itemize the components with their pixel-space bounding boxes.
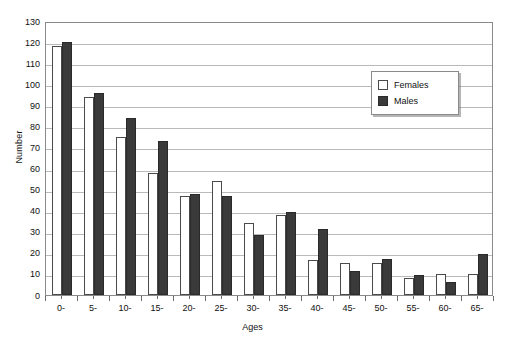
y-axis-tick-label: 120 (16, 39, 40, 48)
y-axis-tick-label: 30 (16, 228, 40, 237)
legend-swatch-males-icon (378, 96, 388, 106)
x-axis-minor-tick (445, 296, 446, 299)
bar-males (446, 282, 456, 295)
x-axis-minor-tick (125, 296, 126, 299)
x-axis-tick (109, 296, 110, 301)
y-axis-tick-label: 80 (16, 123, 40, 132)
bar-females (212, 181, 222, 295)
x-axis-tick (429, 296, 430, 301)
bar-males (414, 275, 424, 295)
bar-males (478, 254, 488, 295)
x-axis-minor-tick (189, 296, 190, 299)
bar-males (62, 42, 72, 295)
x-axis-tick (365, 296, 366, 301)
bar-males (350, 271, 360, 295)
y-axis-tick-label: 0 (16, 292, 40, 301)
y-axis-tick-label: 90 (16, 102, 40, 111)
x-axis-minor-tick (349, 296, 350, 299)
x-axis-tick (397, 296, 398, 301)
y-axis-tick-label: 10 (16, 270, 40, 279)
plot-area (45, 22, 493, 296)
bar-females (52, 46, 62, 295)
bar-females (180, 196, 190, 295)
legend-swatch-females-icon (378, 80, 388, 90)
x-axis-tick (333, 296, 334, 301)
y-axis-tick-label: 110 (16, 60, 40, 69)
bar-females (404, 278, 414, 295)
x-axis-tick (269, 296, 270, 301)
legend-label-females: Females (394, 80, 429, 90)
bar-males (382, 259, 392, 295)
bar-females (468, 274, 478, 295)
bar-females (436, 274, 446, 295)
bar-group (276, 23, 296, 295)
x-axis-tick (237, 296, 238, 301)
bar-females (148, 173, 158, 295)
bar-chart: Number 1301201101009080706050403020100 0… (0, 0, 505, 344)
y-axis-tick-label: 20 (16, 249, 40, 258)
bar-group (116, 23, 136, 295)
x-axis-tick (461, 296, 462, 301)
bar-group (404, 23, 424, 295)
bar-females (116, 137, 126, 295)
bars-layer (46, 23, 492, 295)
x-axis-title: Ages (0, 322, 505, 332)
x-axis-minor-tick (413, 296, 414, 299)
bar-group (84, 23, 104, 295)
x-axis-minor-tick (317, 296, 318, 299)
y-axis-tick-labels: 1301201101009080706050403020100 (14, 0, 40, 344)
bar-group (212, 23, 232, 295)
bar-males (254, 235, 264, 295)
x-axis-tick (77, 296, 78, 301)
x-axis-tick (45, 296, 46, 301)
legend-label-males: Males (394, 96, 418, 106)
y-axis-tick-label: 130 (16, 18, 40, 27)
bar-group (148, 23, 168, 295)
bar-group (436, 23, 456, 295)
bar-females (244, 223, 254, 295)
x-axis-tick (301, 296, 302, 301)
bar-males (126, 118, 136, 295)
x-axis-minor-tick (285, 296, 286, 299)
bar-males (190, 194, 200, 295)
legend-item-females: Females (378, 77, 452, 93)
bar-group (52, 23, 72, 295)
legend-item-males: Males (378, 93, 452, 109)
x-axis-tick (141, 296, 142, 301)
x-axis-tick-labels: 0-5-10-15-20-25-30-35-40-45-50-55-60-65- (45, 303, 493, 319)
chart-legend: Females Males (371, 71, 459, 115)
x-axis-minor-tick (477, 296, 478, 299)
bar-group (372, 23, 392, 295)
y-axis-tick-label: 40 (16, 207, 40, 216)
x-axis-minor-tick (93, 296, 94, 299)
x-axis-minor-tick (253, 296, 254, 299)
x-axis-tick (205, 296, 206, 301)
bar-females (276, 215, 286, 295)
x-axis-tick (173, 296, 174, 301)
bar-females (308, 260, 318, 295)
bar-males (94, 93, 104, 295)
bar-females (84, 97, 94, 295)
x-axis-minor-tick (381, 296, 382, 299)
x-axis-tick-label: 65- (457, 303, 497, 313)
bar-group (468, 23, 488, 295)
y-axis-tick-label: 50 (16, 186, 40, 195)
x-axis-minor-tick (221, 296, 222, 299)
bar-females (340, 263, 350, 295)
bar-males (318, 229, 328, 295)
y-axis-tick-label: 60 (16, 165, 40, 174)
bar-group (340, 23, 360, 295)
bar-group (180, 23, 200, 295)
x-axis-tick (493, 296, 494, 301)
x-axis-minor-tick (157, 296, 158, 299)
y-axis-tick-label: 70 (16, 144, 40, 153)
bar-males (158, 141, 168, 295)
bar-males (222, 196, 232, 295)
y-axis-tick-label: 100 (16, 81, 40, 90)
x-axis-minor-tick (61, 296, 62, 299)
bar-group (244, 23, 264, 295)
bar-females (372, 263, 382, 295)
bar-males (286, 212, 296, 295)
bar-group (308, 23, 328, 295)
